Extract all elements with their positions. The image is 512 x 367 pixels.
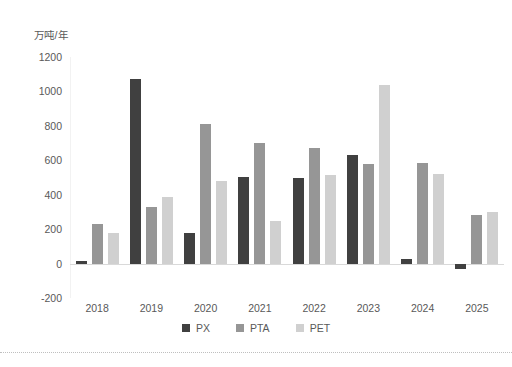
- bar-pta-2020[interactable]: [200, 124, 211, 263]
- x-tick-label-2019: 2019: [124, 302, 178, 314]
- bar-group-inner: [287, 57, 341, 298]
- bar-slot: [92, 57, 103, 298]
- bar-groups: [70, 57, 504, 298]
- bar-px-2022[interactable]: [293, 178, 304, 263]
- x-tick-label-2025: 2025: [450, 302, 504, 314]
- bar-slot: [487, 57, 498, 298]
- bar-slot: [379, 57, 390, 298]
- bar-slot: [325, 57, 336, 298]
- bar-group-inner: [396, 57, 450, 298]
- x-tick-label-2023: 2023: [341, 302, 395, 314]
- y-tick-label: 400: [22, 189, 62, 201]
- bar-pta-2025[interactable]: [471, 215, 482, 263]
- bar-pet-2025[interactable]: [487, 212, 498, 264]
- x-tick-label-2022: 2022: [287, 302, 341, 314]
- bar-group-inner: [233, 57, 287, 298]
- bar-slot: [401, 57, 412, 298]
- bar-group-2025: [450, 57, 504, 298]
- bar-pta-2023[interactable]: [363, 164, 374, 264]
- bar-group-2022: [287, 57, 341, 298]
- bar-pet-2024[interactable]: [433, 174, 444, 264]
- bar-group-2020: [179, 57, 233, 298]
- bar-slot: [309, 57, 320, 298]
- bar-group-2018: [70, 57, 124, 298]
- x-axis-ticks: 20182019202020212022202320242025: [70, 302, 504, 314]
- bar-slot: [216, 57, 227, 298]
- y-tick-label: 800: [22, 120, 62, 132]
- bar-slot: [433, 57, 444, 298]
- bar-slot: [254, 57, 265, 298]
- bar-slot: [471, 57, 482, 298]
- chart-legend: PXPTAPET: [0, 322, 512, 334]
- y-tick-label: 1200: [22, 51, 62, 63]
- bar-group-inner: [341, 57, 395, 298]
- bar-pta-2021[interactable]: [254, 143, 265, 264]
- bar-pet-2023[interactable]: [379, 85, 390, 263]
- bar-pet-2020[interactable]: [216, 181, 227, 264]
- legend-label: PET: [310, 322, 330, 334]
- plot-area: 120010008006004002000-200: [70, 57, 504, 298]
- bar-group-inner: [179, 57, 233, 298]
- bar-group-2019: [124, 57, 178, 298]
- y-tick-label: 0: [22, 258, 62, 270]
- bar-slot: [238, 57, 249, 298]
- bar-pta-2024[interactable]: [417, 163, 428, 264]
- legend-swatch-icon: [296, 324, 304, 332]
- bar-px-2024[interactable]: [401, 259, 412, 263]
- bar-pet-2019[interactable]: [162, 197, 173, 263]
- bar-px-2020[interactable]: [184, 233, 195, 264]
- bar-slot: [76, 57, 87, 298]
- bar-slot: [108, 57, 119, 298]
- bar-group-2023: [341, 57, 395, 298]
- y-tick-label: 200: [22, 223, 62, 235]
- y-tick-label: -200: [22, 292, 62, 304]
- bar-px-2019[interactable]: [130, 79, 141, 264]
- x-tick-label-2020: 2020: [179, 302, 233, 314]
- x-tick-label-2018: 2018: [70, 302, 124, 314]
- bottom-divider: [0, 352, 512, 353]
- y-tick-label: 600: [22, 154, 62, 166]
- bar-slot: [200, 57, 211, 298]
- bar-slot: [363, 57, 374, 298]
- bar-group-2021: [233, 57, 287, 298]
- legend-item-pet[interactable]: PET: [296, 322, 330, 334]
- x-tick-label-2024: 2024: [396, 302, 450, 314]
- bar-slot: [417, 57, 428, 298]
- bar-pet-2021[interactable]: [270, 221, 281, 263]
- legend-label: PX: [196, 322, 210, 334]
- bar-px-2023[interactable]: [347, 155, 358, 263]
- bar-slot: [455, 57, 466, 298]
- bar-px-2025[interactable]: [455, 264, 466, 269]
- bar-chart: 万吨/年 120010008006004002000-200 201820192…: [0, 0, 512, 367]
- legend-label: PTA: [250, 322, 270, 334]
- bar-group-inner: [450, 57, 504, 298]
- bar-pta-2022[interactable]: [309, 148, 320, 263]
- legend-item-px[interactable]: PX: [182, 322, 210, 334]
- bar-group-inner: [70, 57, 124, 298]
- y-axis-unit-label: 万吨/年: [34, 27, 68, 42]
- legend-swatch-icon: [182, 324, 190, 332]
- bar-slot: [130, 57, 141, 298]
- bar-pta-2019[interactable]: [146, 207, 157, 264]
- bar-slot: [270, 57, 281, 298]
- x-tick-label-2021: 2021: [233, 302, 287, 314]
- bar-slot: [162, 57, 173, 298]
- bar-slot: [146, 57, 157, 298]
- y-tick-label: 1000: [22, 85, 62, 97]
- bar-group-inner: [124, 57, 178, 298]
- bar-pta-2018[interactable]: [92, 224, 103, 264]
- bar-slot: [347, 57, 358, 298]
- legend-item-pta[interactable]: PTA: [236, 322, 270, 334]
- bar-group-2024: [396, 57, 450, 298]
- bar-px-2018[interactable]: [76, 261, 87, 264]
- bar-pet-2022[interactable]: [325, 175, 336, 264]
- bar-px-2021[interactable]: [238, 177, 249, 264]
- bar-slot: [184, 57, 195, 298]
- legend-swatch-icon: [236, 324, 244, 332]
- bar-slot: [293, 57, 304, 298]
- bar-pet-2018[interactable]: [108, 233, 119, 264]
